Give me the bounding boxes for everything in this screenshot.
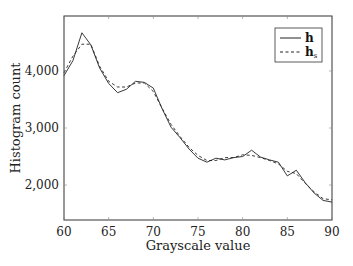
y-tick-label: 4,000 (25, 64, 59, 78)
x-tick-label: 65 (101, 225, 116, 239)
legend-label-h: h (305, 31, 314, 45)
x-tick-label: 70 (146, 225, 161, 239)
y-tick-label: 3,000 (25, 121, 59, 135)
series-line-h-s (64, 44, 332, 200)
x-axis-label: Grayscale value (146, 238, 251, 253)
x-tick-label: 75 (190, 225, 205, 239)
x-tick-label: 80 (235, 225, 250, 239)
legend: h hs (275, 28, 322, 62)
histogram-chart: 60657075808590 2,0003,0004,000 Grayscale… (0, 0, 353, 266)
x-tick-label: 85 (280, 225, 295, 239)
x-tick-label: 60 (56, 225, 71, 239)
y-axis-ticks: 2,0003,0004,000 (25, 64, 332, 192)
x-tick-label: 90 (324, 225, 339, 239)
y-axis-label: Histogram count (8, 62, 23, 174)
y-tick-label: 2,000 (25, 178, 59, 192)
